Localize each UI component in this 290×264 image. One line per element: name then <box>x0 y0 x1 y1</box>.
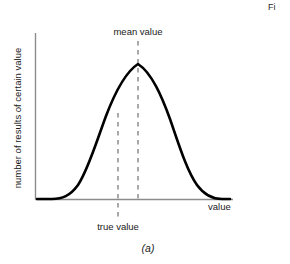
figure-caption-partial: Fi <box>268 3 276 12</box>
distribution-curve <box>37 64 230 199</box>
y-axis-label: number of results of certain value <box>13 48 23 188</box>
figure-container: Fi mean value true value value number of… <box>0 0 290 264</box>
true-value-label: true value <box>97 222 139 232</box>
mean-value-label: mean value <box>113 27 162 37</box>
distribution-plot <box>0 0 290 264</box>
x-axis-label: value <box>208 202 231 212</box>
subfigure-label: (a) <box>142 243 155 254</box>
